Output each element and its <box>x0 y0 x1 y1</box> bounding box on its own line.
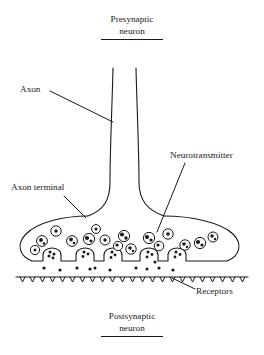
receptor-ticks <box>20 277 245 282</box>
axon-tube <box>88 68 164 216</box>
neurotransmitter-molecules <box>42 261 174 272</box>
presynaptic-title-rule <box>101 39 163 40</box>
fusing-vesicles <box>48 251 182 260</box>
label-axon: Axon <box>20 84 40 96</box>
leader-axon <box>50 91 113 122</box>
postsynaptic-title-line2: neuron <box>0 323 264 335</box>
postsynaptic-title-rule <box>101 336 163 337</box>
leader-neurotransmitter <box>157 163 185 232</box>
label-axon-terminal: Axon terminal <box>11 182 64 194</box>
page-title-postsynaptic: Postsynaptic neuron <box>0 311 264 335</box>
synapse-diagram-page: Presynaptic neuron Postsynaptic neuron A… <box>0 0 264 355</box>
leader-axon-terminal <box>64 196 86 218</box>
postsynaptic-title-line1: Postsynaptic <box>0 311 264 323</box>
synapse-diagram-figure <box>0 0 264 355</box>
presynaptic-title-line1: Presynaptic <box>0 14 264 26</box>
label-neurotransmitter: Neurotransmitter <box>170 150 233 162</box>
page-title-presynaptic: Presynaptic neuron <box>0 14 264 38</box>
label-receptors: Receptors <box>196 286 233 298</box>
presynaptic-title-line2: neuron <box>0 26 264 38</box>
